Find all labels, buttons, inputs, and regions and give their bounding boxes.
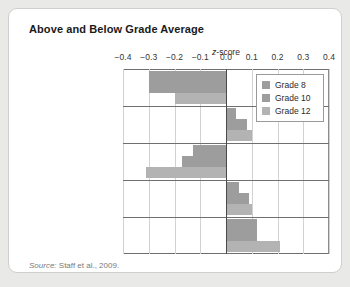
source-citation: Staff et al., 2009. [57,261,120,270]
x-tick-label: −0.3 [140,52,157,62]
legend-label: Grade 12 [275,106,310,116]
gridline [123,69,124,254]
x-tick-label: 0.2 [272,52,284,62]
legend-swatch [262,94,270,102]
legend-label: Grade 10 [275,93,310,103]
legend-item[interactable]: Grade 8 [262,79,318,91]
legend-label: Grade 8 [275,80,306,90]
bar [226,219,257,230]
chart-card: Above and Below Grade Average z-score −0… [8,8,342,273]
bar [226,230,257,241]
chart-screenshot: Above and Below Grade Average z-score −0… [0,0,350,287]
x-tick-label: 0.3 [297,52,309,62]
legend-rows: Grade 8Grade 10Grade 12 [262,79,318,117]
bar [193,145,226,156]
bar [175,93,227,104]
bar [182,156,226,167]
gridline [329,69,330,254]
plot-area: −0.4−0.3−0.2−0.10.00.10.20.30.4 Work ove… [123,69,329,254]
x-tick-label: 0.4 [323,52,335,62]
bar [226,204,252,215]
x-tick-label: −0.4 [115,52,132,62]
x-tick-label: 0.0 [220,52,232,62]
source-label: Source: [29,261,57,270]
bar [226,108,236,119]
legend-box[interactable]: Grade 8Grade 10Grade 12 [256,74,324,122]
legend-swatch [262,107,270,115]
chart-title: Above and Below Grade Average [29,23,204,35]
bar [146,167,226,178]
bar [226,182,239,193]
x-tick-label: −0.1 [192,52,209,62]
x-tick-label: −0.2 [166,52,183,62]
source-note: Source: Staff et al., 2009. [29,261,119,270]
legend-item[interactable]: Grade 10 [262,92,318,104]
x-tick-label: 0.1 [246,52,258,62]
legend-swatch [262,81,270,89]
bar [226,130,252,141]
zero-reference-line [226,69,227,254]
bar [149,71,226,82]
bar [149,82,226,93]
bar [226,193,249,204]
bar [226,119,247,130]
legend-item[interactable]: Grade 12 [262,105,318,117]
gridline [149,69,150,254]
bar [226,241,280,252]
